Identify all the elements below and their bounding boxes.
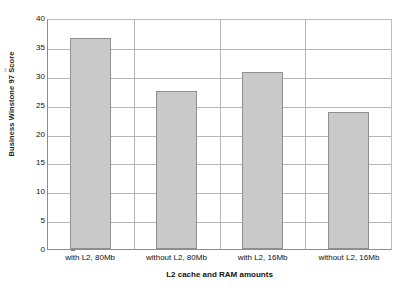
x-tick-label: without L2, 80Mb — [133, 253, 219, 263]
y-tick-label: 0 — [26, 246, 45, 254]
bar-2[interactable] — [156, 91, 197, 249]
bar-series — [48, 20, 391, 249]
x-axis-title: L2 cache and RAM amounts — [47, 270, 392, 279]
x-tick-label: without L2, 16Mb — [306, 253, 392, 263]
y-tick-label: 30 — [26, 73, 45, 81]
y-tick-label: 35 — [26, 44, 45, 52]
image-edge-artifact — [4, 68, 7, 72]
x-tick-label: with L2, 16Mb — [220, 253, 306, 263]
bar-chart: Business Winstone 97 Score 4035302520151… — [0, 0, 406, 296]
y-tick-label: 10 — [26, 188, 45, 196]
y-axis-tick-labels: 4035302520151050 — [26, 19, 45, 250]
plot-area — [47, 19, 392, 250]
bar-slot — [48, 20, 134, 249]
y-tick-label: 5 — [26, 217, 45, 225]
bar-slot — [134, 20, 220, 249]
bar-slot — [305, 20, 391, 249]
y-axis-title: Business Winstone 97 Score — [0, 0, 22, 252]
bar-4[interactable] — [328, 112, 369, 249]
y-tick-label: 25 — [26, 102, 45, 110]
x-tick-label: with L2, 80Mb — [47, 253, 133, 263]
bar-slot — [220, 20, 306, 249]
y-tick-mark — [71, 250, 75, 251]
bar-1[interactable] — [70, 38, 111, 249]
x-axis-tick-labels: with L2, 80Mbwithout L2, 80Mbwith L2, 16… — [47, 253, 392, 263]
y-tick-label: 15 — [26, 159, 45, 167]
bar-3[interactable] — [242, 72, 283, 249]
y-tick-label: 20 — [26, 131, 45, 139]
y-tick-label: 40 — [26, 15, 45, 23]
